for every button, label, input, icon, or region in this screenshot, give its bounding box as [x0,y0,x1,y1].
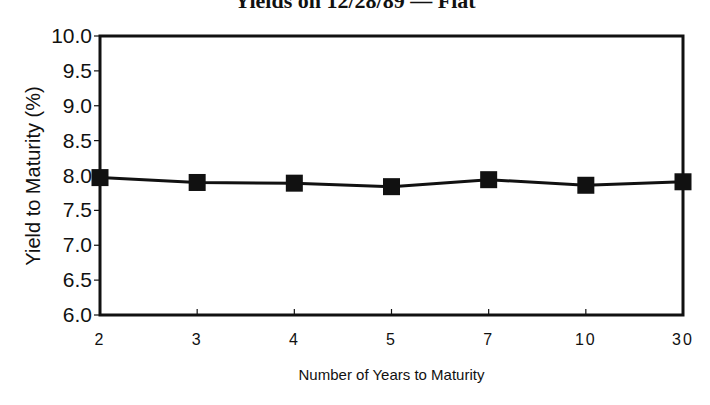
y-tick-label: 7.5 [63,198,92,221]
yield-curve-plot: 6.06.57.07.58.08.59.09.510.0 234571030 [0,0,710,405]
square-marker [577,177,594,194]
x-tick-label: 30 [672,331,694,348]
x-tick-label: 5 [386,331,397,348]
y-tick-label: 6.5 [63,268,92,291]
y-tick-label: 8.5 [63,129,92,152]
x-tick-label: 4 [289,331,300,348]
square-marker [675,173,692,190]
square-marker [480,171,497,188]
x-tick-label: 2 [95,331,106,348]
square-marker [286,175,303,192]
x-tick-label: 7 [483,331,494,348]
data-series [92,169,692,195]
square-marker [189,174,206,191]
x-tick-label: 3 [192,331,203,348]
y-tick-label: 9.0 [63,94,92,117]
y-tick-label: 7.0 [63,233,92,256]
plot-frame [100,36,683,315]
square-marker [92,169,109,186]
x-tick-label: 10 [575,331,597,348]
y-tick-label: 10.0 [51,24,92,47]
y-tick-label: 6.0 [63,303,92,326]
square-marker [383,178,400,195]
x-axis-label: Number of Years to Maturity [100,366,683,383]
y-tick-label: 9.5 [63,59,92,82]
y-axis-label: Yield to Maturity (%) [22,86,45,265]
y-tick-label: 8.0 [63,164,92,187]
